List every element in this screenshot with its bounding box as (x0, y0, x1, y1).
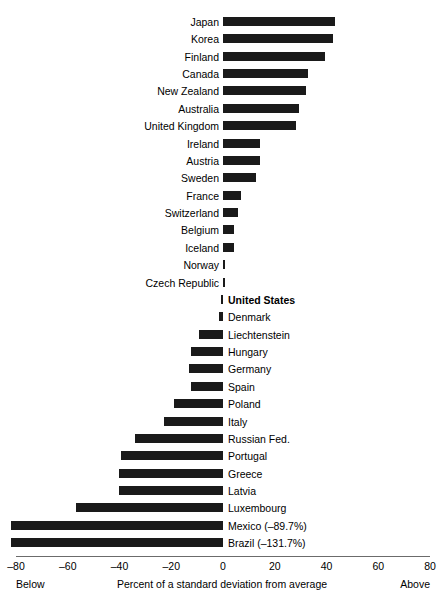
bar-label: New Zealand (157, 84, 219, 98)
bar-row: Canada (0, 67, 444, 81)
bar-row: Australia (0, 102, 444, 116)
bar-row: Brazil (–131.7%) (0, 536, 444, 550)
x-tick-label: –40 (100, 560, 140, 573)
bar-row: New Zealand (0, 84, 444, 98)
bar (223, 243, 234, 252)
axis-end-label-above: Above (400, 578, 430, 590)
bar-row: Spain (0, 380, 444, 394)
bar-row: United States (0, 293, 444, 307)
bar (221, 295, 223, 304)
bar (223, 17, 335, 26)
bar-row: Belgium (0, 223, 444, 237)
bar (219, 312, 223, 321)
x-tick-label: 0 (203, 560, 243, 573)
bar (119, 486, 223, 495)
x-tick-label: 60 (358, 560, 398, 573)
bar (223, 191, 241, 200)
bar-row: Japan (0, 15, 444, 29)
bar-row: Latvia (0, 484, 444, 498)
bar-row: Austria (0, 154, 444, 168)
bar (223, 121, 296, 130)
bar-row: United Kingdom (0, 119, 444, 133)
bar-label: Norway (183, 258, 219, 272)
bar-label: Latvia (228, 484, 256, 498)
bar-row: Denmark (0, 310, 444, 324)
bar (223, 34, 333, 43)
bar-label: Switzerland (165, 206, 219, 220)
bar-label: Belgium (181, 223, 219, 237)
x-tick-label: –60 (48, 560, 88, 573)
bar (223, 139, 260, 148)
bar-label: Russian Fed. (228, 432, 290, 446)
bar-label: Mexico (–89.7%) (228, 519, 307, 533)
bar-label: Italy (228, 415, 247, 429)
bar (223, 104, 299, 113)
bar-label: Portugal (228, 449, 267, 463)
bar-label: Austria (186, 154, 219, 168)
bar (191, 382, 223, 391)
bar (223, 86, 306, 95)
bar-label: Korea (191, 32, 219, 46)
bar-row: Hungary (0, 345, 444, 359)
bar (119, 469, 223, 478)
bar (174, 399, 223, 408)
bar-row: Poland (0, 397, 444, 411)
bar (223, 278, 225, 287)
bar-label: Brazil (–131.7%) (228, 536, 306, 550)
bar-label: Hungary (228, 345, 268, 359)
bar-label: Iceland (185, 241, 219, 255)
bar-row: Portugal (0, 449, 444, 463)
bar-row: France (0, 189, 444, 203)
x-axis-line (16, 556, 430, 557)
bar-row: Norway (0, 258, 444, 272)
bar-row: Korea (0, 32, 444, 46)
bar-row: Russian Fed. (0, 432, 444, 446)
bar-label: Sweden (181, 171, 219, 185)
bar-row: Finland (0, 50, 444, 64)
bar-row: Sweden (0, 171, 444, 185)
bar-label: Liechtenstein (228, 328, 290, 342)
bar (223, 52, 325, 61)
bar (164, 417, 223, 426)
x-tick-label: 20 (255, 560, 295, 573)
x-tick-label: –80 (0, 560, 36, 573)
bar-label: Spain (228, 380, 255, 394)
bar (223, 208, 238, 217)
bar-label: France (186, 189, 219, 203)
bar-row: Ireland (0, 137, 444, 151)
bar (191, 347, 223, 356)
bar-row: Germany (0, 362, 444, 376)
bar-row: Czech Republic (0, 276, 444, 290)
bar (199, 330, 223, 339)
bar-label: United Kingdom (144, 119, 219, 133)
bar (223, 156, 260, 165)
bar-label: Australia (178, 102, 219, 116)
bar-row: Greece (0, 467, 444, 481)
bar-label: Finland (185, 50, 219, 64)
bar-row: Italy (0, 415, 444, 429)
bar-label: United States (228, 293, 295, 307)
bar (11, 521, 223, 530)
bar (223, 69, 308, 78)
bar-label: Ireland (187, 137, 219, 151)
bar (135, 434, 223, 443)
bar-row: Mexico (–89.7%) (0, 519, 444, 533)
bar-row: Liechtenstein (0, 328, 444, 342)
bar-label: Japan (190, 15, 219, 29)
bar-row: Iceland (0, 241, 444, 255)
bar (223, 260, 225, 269)
bar (223, 173, 256, 182)
x-tick-label: 40 (307, 560, 347, 573)
bar-row: Luxembourg (0, 501, 444, 515)
x-tick-label: –20 (151, 560, 191, 573)
bar (76, 503, 223, 512)
bar (121, 451, 223, 460)
bar-label: Poland (228, 397, 261, 411)
bar-label: Germany (228, 362, 271, 376)
bar-label: Denmark (228, 310, 271, 324)
plot-area: JapanKoreaFinlandCanadaNew ZealandAustra… (0, 0, 444, 552)
bar-label: Luxembourg (228, 501, 286, 515)
x-axis-title: Percent of a standard deviation from ave… (0, 578, 444, 590)
chart-container: JapanKoreaFinlandCanadaNew ZealandAustra… (0, 0, 444, 602)
bar (189, 364, 223, 373)
